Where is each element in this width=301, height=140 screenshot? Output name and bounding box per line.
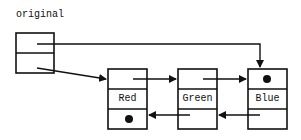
node-green-label: Green <box>178 93 217 104</box>
node-blue-label: Blue <box>248 93 287 104</box>
node-red-label: Red <box>108 93 147 104</box>
linked-list-diagram <box>0 0 301 140</box>
null-dot-blue-next <box>263 75 271 83</box>
arrow-first-to-blue <box>37 44 260 67</box>
null-dot-red-prev <box>125 115 133 123</box>
